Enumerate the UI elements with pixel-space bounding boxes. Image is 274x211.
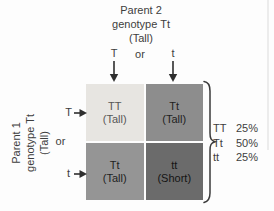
ratio-genotype: tt xyxy=(213,151,219,163)
cell-phenotype: (Tall) xyxy=(103,172,127,185)
parent2-or-label: or xyxy=(132,48,148,61)
ratio-percent: 25% xyxy=(236,122,258,134)
cell-genotype: TT xyxy=(108,100,121,113)
parent2-phenotype: (Tall) xyxy=(71,31,211,45)
parent1-phenotype: (Tall) xyxy=(37,88,51,198)
parent1-or-label: or xyxy=(52,135,69,148)
cell-genotype: tt xyxy=(171,159,177,172)
page-edge-shadow xyxy=(267,0,269,150)
cell-genotype: Tt xyxy=(169,100,179,113)
ratio-row-tt: tt 25% xyxy=(213,150,258,165)
parent1-header: Parent 1 genotype Tt (Tall) xyxy=(9,88,51,198)
genotype-ratio-list: TT 25% Tt 50% tt 25% xyxy=(213,121,258,165)
parent1-allele-T: T xyxy=(62,106,75,119)
cell-phenotype: (Tall) xyxy=(103,113,127,126)
punnett-cell-Tt-top: Tt (Tall) xyxy=(146,84,204,141)
ratio-genotype: Tt xyxy=(213,137,223,149)
punnett-cell-tt: tt (Short) xyxy=(146,143,204,200)
ratio-genotype: TT xyxy=(213,122,226,134)
ratio-percent: 50% xyxy=(236,137,258,149)
down-arrow-icon xyxy=(169,61,177,82)
down-arrow-icon xyxy=(110,61,118,82)
cell-genotype: Tt xyxy=(110,159,120,172)
ratio-row-TT: TT 25% xyxy=(213,121,258,136)
parent1-allele-t: t xyxy=(62,167,75,180)
punnett-cell-Tt-bottom: Tt (Tall) xyxy=(86,143,144,200)
parent1-genotype: genotype Tt xyxy=(23,88,37,198)
cell-phenotype: (Tall) xyxy=(162,113,186,126)
parent2-allele-t: t xyxy=(165,47,181,60)
parent1-name: Parent 1 xyxy=(9,88,23,198)
ratio-percent: 25% xyxy=(236,151,258,163)
punnett-cell-TT: TT (Tall) xyxy=(86,84,144,141)
ratio-row-Tt: Tt 50% xyxy=(213,136,258,151)
parent2-allele-T: T xyxy=(106,47,122,60)
punnett-square-figure: Parent 2 genotype Tt (Tall) T or t Paren… xyxy=(0,0,274,211)
punnett-grid: TT (Tall) Tt (Tall) Tt (Tall) tt (Short) xyxy=(86,84,203,200)
parent2-genotype: genotype Tt xyxy=(71,17,211,31)
cell-phenotype: (Short) xyxy=(157,172,191,185)
parent2-header: Parent 2 genotype Tt (Tall) xyxy=(71,3,211,45)
parent2-name: Parent 2 xyxy=(71,3,211,17)
